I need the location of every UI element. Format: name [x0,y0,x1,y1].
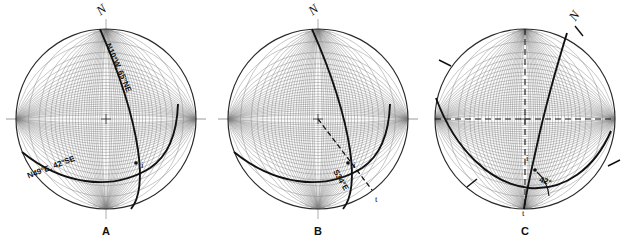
stereonet-panel-b: N S34°E i t B [212,0,424,239]
stereonet-panel-c: N 42° i t C [425,0,637,239]
stereonet-diagram-c [425,0,637,239]
intersection-point [346,161,350,165]
stereonet-figure: N N10°W, 65°NE N49°E, 42°SE i A [0,0,637,239]
intersection-mark-c: i [526,153,529,163]
trend-mark-b: t [375,194,378,204]
intersection-mark-b: i [353,160,356,170]
stereonet-panel-a: N N10°W, 65°NE N49°E, 42°SE i A [0,0,212,239]
panel-label-c: C [419,225,631,237]
stereonet-diagram-a [0,0,212,239]
panel-label-b: B [212,225,424,237]
intersection-point [134,161,138,165]
intersection-mark-a: i [141,160,144,170]
intersection-point [533,168,537,172]
stereonet-diagram-b [212,0,424,239]
trend-mark-c: t [522,208,525,218]
panel-label-a: A [0,225,212,237]
